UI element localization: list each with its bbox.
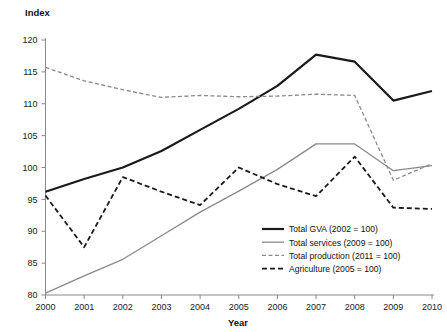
x-tick-label: 2005 xyxy=(229,302,249,312)
y-tick-label: 110 xyxy=(23,99,37,109)
plot-background xyxy=(0,0,447,332)
x-tick-label: 2004 xyxy=(190,302,210,312)
y-tick-label: 85 xyxy=(27,258,37,268)
legend-label-2: Total production (2011 = 100) xyxy=(289,251,401,261)
index-line-chart: 80859095100105110115120 2000200120022003… xyxy=(0,0,447,332)
x-tick-label: 2006 xyxy=(267,302,287,312)
y-tick-label: 90 xyxy=(27,226,37,236)
x-tick-label: 2003 xyxy=(151,302,171,312)
y-axis-title: Index xyxy=(25,7,51,18)
x-tick-label: 2001 xyxy=(74,302,94,312)
x-axis-title: Year xyxy=(228,317,248,328)
x-tick-label: 2009 xyxy=(383,302,403,312)
chart-canvas: 80859095100105110115120 2000200120022003… xyxy=(0,0,447,332)
y-tick-label: 115 xyxy=(23,67,37,77)
y-tick-label: 95 xyxy=(27,195,37,205)
y-tick-label: 100 xyxy=(22,163,37,173)
legend-label-3: Agriculture (2005 = 100) xyxy=(289,264,382,274)
y-tick-label: 105 xyxy=(22,131,37,141)
legend-label-1: Total services (2009 = 100) xyxy=(289,238,393,248)
legend-label-0: Total GVA (2002 = 100) xyxy=(289,224,378,234)
x-tick-label: 2007 xyxy=(306,302,326,312)
x-tick-label: 2002 xyxy=(113,302,133,312)
x-tick-label: 2000 xyxy=(35,302,55,312)
x-tick-label: 2010 xyxy=(422,302,442,312)
x-tick-label: 2008 xyxy=(345,302,365,312)
y-tick-label: 120 xyxy=(22,35,37,45)
y-tick-label: 80 xyxy=(27,290,37,300)
